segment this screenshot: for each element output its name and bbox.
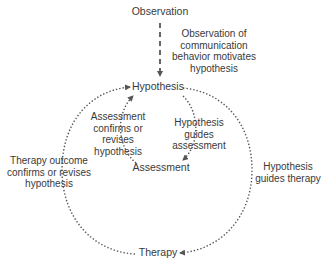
- edge-label-therapy-outcome-confirms-hypothesis: Therapy outcome confirms or revises hypo…: [6, 155, 92, 190]
- edge-label-line: Hypothesis: [172, 117, 226, 129]
- edge-label-line: Hypothesis: [254, 161, 322, 173]
- edge-label-line: behavior motivates: [172, 51, 256, 63]
- node-assessment: Assessment: [131, 162, 191, 174]
- edge-label-line: communication: [172, 40, 256, 52]
- edge-label-line: assessment: [172, 140, 226, 152]
- edge-label-line: guides therapy: [254, 173, 322, 185]
- edge-label-line: hypothesis: [172, 63, 256, 75]
- edge-label-line: hypothesis: [88, 146, 148, 158]
- node-observation: Observation: [128, 6, 192, 18]
- node-hypothesis: Hypothesis: [132, 81, 184, 93]
- edge-label-line: Observation of: [172, 28, 256, 40]
- edge-label-line: guides: [172, 129, 226, 141]
- edge-label-line: confirms or revises: [6, 167, 92, 179]
- edge-label-observation-motivates-hypothesis: Observation of communication behavior mo…: [172, 28, 256, 74]
- edge-label-assessment-confirms-hypothesis: Assessment confirms or revises hypothesi…: [88, 111, 148, 157]
- edge-label-line: hypothesis: [6, 178, 92, 190]
- edge-label-line: Therapy outcome: [6, 155, 92, 167]
- edge-label-hypothesis-guides-therapy: Hypothesis guides therapy: [254, 161, 322, 184]
- edge-label-line: confirms or: [88, 123, 148, 135]
- edge-label-line: revises: [88, 134, 148, 146]
- diagram-connectors: [0, 0, 323, 263]
- node-therapy: Therapy: [137, 247, 179, 259]
- edge-label-hypothesis-guides-assessment: Hypothesis guides assessment: [172, 117, 226, 152]
- edge-label-line: Assessment: [88, 111, 148, 123]
